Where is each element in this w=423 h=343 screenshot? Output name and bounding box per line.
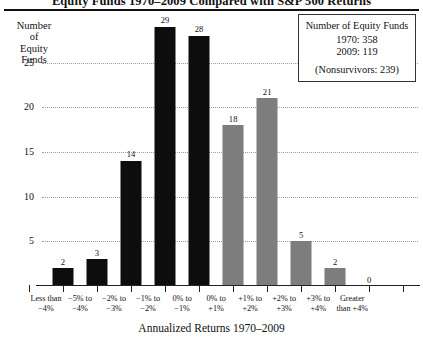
x-axis-tick: [369, 285, 370, 292]
bar-value-label: 2: [61, 257, 65, 267]
bar-value-label: 14: [127, 149, 136, 159]
x-axis-tick: [335, 285, 336, 292]
x-axis-tick-label-line: 0% to: [165, 294, 199, 304]
bar[interactable]: [189, 36, 210, 286]
x-axis-tick-label-line: Greater: [335, 294, 369, 304]
x-axis-tick: [233, 285, 234, 292]
bar[interactable]: [257, 98, 278, 286]
legend-nonsurvivors: (Nonsurvivors: 239): [303, 64, 411, 75]
bar[interactable]: [223, 125, 244, 286]
y-axis-tick-label: 20: [8, 101, 34, 112]
x-axis-tick: [131, 285, 132, 292]
x-axis-tick-label-line: +1%: [199, 304, 233, 314]
y-axis-tick-label: 25: [8, 57, 34, 68]
x-axis-tick-label: +2% to+3%: [267, 294, 301, 313]
x-axis-tick-label: −5% to−4%: [63, 294, 97, 313]
x-axis-tick: [403, 285, 404, 292]
x-axis-tick-label-line: +2% to: [267, 294, 301, 304]
x-axis-tick-label-line: −2% to: [97, 294, 131, 304]
x-axis-tick-label: +3% to+4%: [301, 294, 335, 313]
bar[interactable]: [155, 27, 176, 286]
chart-container: Equity Funds 1970–2009 Compared with S&P…: [0, 0, 423, 343]
x-axis-tick: [199, 285, 200, 292]
x-axis-tick-label-line: −4%: [63, 304, 97, 314]
x-axis-tick: [63, 285, 64, 292]
bar[interactable]: [87, 259, 108, 286]
x-axis-tick-label: −2% to−3%: [97, 294, 131, 313]
bar-value-label: 21: [263, 87, 272, 97]
x-axis-tick: [165, 285, 166, 292]
x-axis-tick-label: +1% to+2%: [233, 294, 267, 313]
x-axis-tick-label-line: +4%: [301, 304, 335, 314]
bar-value-label: 18: [229, 114, 238, 124]
x-axis-tick-label: 0% to+1%: [199, 294, 233, 313]
bar-slot: 14: [114, 18, 148, 286]
x-axis-tick-label-line: than +4%: [335, 304, 369, 314]
legend-box: Number of Equity Funds 1970: 358 2009: 1…: [298, 14, 416, 82]
bar[interactable]: [291, 241, 312, 286]
bar-slot: 2: [46, 18, 80, 286]
chart-title: Equity Funds 1970–2009 Compared with S&P…: [0, 0, 423, 9]
x-axis-tick-label: −1% to−2%: [131, 294, 165, 313]
bar[interactable]: [325, 268, 346, 286]
x-axis-tick: [29, 285, 30, 292]
x-axis-tick: [97, 285, 98, 292]
x-axis-tick-label-line: −5% to: [63, 294, 97, 304]
bar[interactable]: [121, 161, 142, 286]
bar-slot: 18: [216, 18, 250, 286]
bar-value-label: 3: [95, 248, 99, 258]
x-axis-tick: [301, 285, 302, 292]
x-axis-tick-label: Less than−4%: [29, 294, 63, 313]
x-axis-tick-label-line: 0% to: [199, 294, 233, 304]
bar[interactable]: [53, 268, 74, 286]
title-divider: [4, 9, 419, 11]
y-axis-tick-label: 10: [8, 191, 34, 202]
bar-slot: 21: [250, 18, 284, 286]
x-axis-tick-label: 0% to−1%: [165, 294, 199, 313]
x-axis-tick-label-line: −4%: [29, 304, 63, 314]
bar-value-label: 28: [195, 24, 204, 34]
y-axis-tick-label: 15: [8, 146, 34, 157]
x-axis-tick-label-line: +1% to: [233, 294, 267, 304]
x-axis-tick-label-line: −1%: [165, 304, 199, 314]
bar-value-label: 29: [161, 15, 170, 25]
x-axis-tick: [267, 285, 268, 292]
bar-value-label: 0: [367, 275, 371, 285]
x-axis-tick-label-line: −2%: [131, 304, 165, 314]
bar-slot: 28: [182, 18, 216, 286]
bar-slot: 3: [80, 18, 114, 286]
x-axis-tick-label-line: +3%: [267, 304, 301, 314]
x-axis-line: [36, 285, 420, 286]
legend-line-2009: 2009: 119: [303, 46, 411, 58]
bar-slot: 29: [148, 18, 182, 286]
x-axis-title: Annualized Returns 1970–2009: [0, 322, 423, 334]
legend-line-1970: 1970: 358: [303, 34, 411, 46]
x-axis-tick-label-line: −1% to: [131, 294, 165, 304]
bar-value-label: 5: [299, 230, 303, 240]
x-axis-tick-label-line: +2%: [233, 304, 267, 314]
x-axis-tick-label-line: −3%: [97, 304, 131, 314]
x-axis-tick-label: Greaterthan +4%: [335, 294, 369, 313]
y-axis-tick-label: 5: [8, 235, 34, 246]
x-axis-tick-label-line: Less than: [29, 294, 63, 304]
bar-value-label: 2: [333, 257, 337, 267]
x-axis-tick-label-line: +3% to: [301, 294, 335, 304]
legend-title: Number of Equity Funds: [303, 20, 411, 31]
